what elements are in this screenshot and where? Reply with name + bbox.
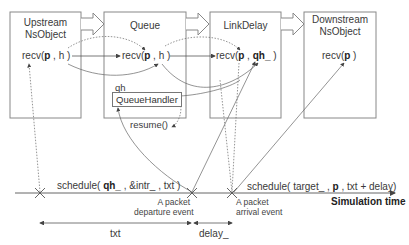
queue-title: Queue bbox=[104, 20, 186, 32]
arrival-event-label: A packetarrival event bbox=[236, 197, 282, 217]
simulation-time-label: Simulation time bbox=[331, 196, 405, 208]
queue-recv: recv(p , h ) bbox=[122, 50, 170, 62]
schedule-arrival-label: schedule( target_ , p , txt + delay) bbox=[247, 181, 396, 193]
queuehandler-box: QueueHandler bbox=[112, 92, 182, 107]
downstream-recv: recv(p ) bbox=[322, 50, 356, 62]
downstream-title: DownstreamNsObject bbox=[304, 14, 376, 38]
resume-label: resume() bbox=[130, 119, 168, 130]
upstream-title: UpstreamNsObject bbox=[10, 17, 81, 41]
linkdelay-title: LinkDelay bbox=[210, 20, 281, 32]
schedule-departure-label: schedule( qh_ , &intr_ , txt ) bbox=[57, 180, 180, 192]
linkdelay-recv: recv(p , qh_ ) bbox=[216, 50, 277, 62]
departure-event-label: A packetdeparture event bbox=[134, 197, 190, 217]
interval-txt-label: txt bbox=[110, 228, 121, 240]
interval-delay-label: delay_ bbox=[199, 228, 228, 240]
upstream-recv: recv(p , h ) bbox=[22, 50, 70, 62]
